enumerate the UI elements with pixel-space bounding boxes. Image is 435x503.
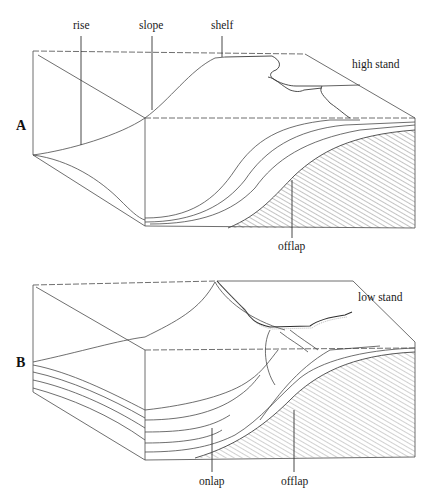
sea-level-block-diagram-figure: A rise slope shelf high stand offlap B l… [0,0,435,503]
label-offlap-b: offlap [281,476,308,488]
label-offlap-a: offlap [278,241,305,253]
label-slope: slope [139,20,163,32]
label-onlap: onlap [199,476,225,488]
panel-a-basement-hatch [228,130,415,228]
panel-a-leader-lines [81,36,292,238]
panel-a-coastline [225,56,350,118]
label-high-stand: high stand [352,59,400,71]
panel-b-letter: B [16,356,25,370]
label-shelf: shelf [211,20,233,32]
label-low-stand: low stand [358,292,402,304]
panel-a-letter: A [16,119,26,133]
panel-b-coastline [217,281,352,327]
label-rise: rise [73,20,90,32]
panel-a-drawing [0,0,435,503]
